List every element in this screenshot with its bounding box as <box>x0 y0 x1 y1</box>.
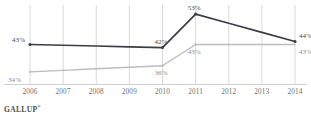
x-axis-tick-2006: 2006 <box>22 88 37 96</box>
chart-plot-area <box>0 0 311 121</box>
data-point-marker <box>194 13 197 16</box>
data-point-marker <box>161 46 164 49</box>
x-axis-tick-2012: 2012 <box>221 88 236 96</box>
x-axis-tick-2009: 2009 <box>122 88 137 96</box>
data-value-label: 53% <box>188 4 201 12</box>
data-value-label: 36% <box>155 69 168 77</box>
gallup-line-chart: 43%34%42%36%53%43%44%43% 200620072008200… <box>0 0 311 121</box>
data-point-marker <box>194 43 196 45</box>
data-value-label: 34% <box>8 76 21 84</box>
data-value-label: 44% <box>299 32 311 40</box>
x-axis-tick-2010: 2010 <box>155 88 170 96</box>
x-axis-tick-2007: 2007 <box>56 88 71 96</box>
data-value-label: 43% <box>299 48 311 56</box>
x-axis-tick-2011: 2011 <box>188 88 203 96</box>
data-value-label: 43% <box>188 48 201 56</box>
data-point-marker <box>29 71 31 73</box>
data-value-label: 43% <box>12 36 25 44</box>
source-name: GALLUP <box>4 105 37 114</box>
x-axis-tick-2013: 2013 <box>254 88 269 96</box>
source-attribution: GALLUP® <box>4 104 41 114</box>
data-point-marker <box>161 65 163 67</box>
x-axis-tick-2008: 2008 <box>89 88 104 96</box>
registered-mark-icon: ® <box>37 104 40 109</box>
data-point-marker <box>29 43 32 46</box>
x-axis-tick-2014: 2014 <box>287 88 302 96</box>
data-value-label: 42% <box>155 38 168 46</box>
data-point-marker <box>294 40 297 43</box>
